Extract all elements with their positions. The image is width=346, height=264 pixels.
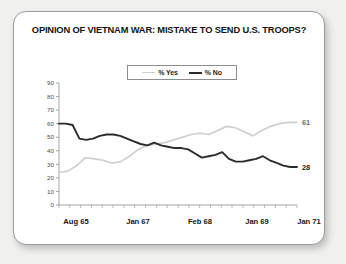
y-axis-tick-label: 0 xyxy=(51,201,55,208)
y-axis-tick-label: 80 xyxy=(47,93,54,100)
x-axis-tick-label: Feb 68 xyxy=(188,217,212,226)
plot-area: 0102030405060708090 Aug 65Jan 67Feb 68Ja… xyxy=(14,12,326,246)
y-axis-tick-label: 50 xyxy=(47,133,54,140)
y-axis-tick-label: 20 xyxy=(47,174,54,181)
x-axis-tick-label: Jan 71 xyxy=(297,217,321,226)
y-axis-tick-label: 90 xyxy=(47,79,54,86)
data-series-group xyxy=(59,122,297,172)
y-axis-tick-label: 60 xyxy=(47,120,54,127)
y-axis-tick-label: 30 xyxy=(47,161,54,168)
x-axis-tick-label: Jan 69 xyxy=(245,217,269,226)
y-axis-tick-label: 70 xyxy=(47,106,54,113)
end-value-label-no: 28 xyxy=(302,163,310,172)
x-axis-tick-label: Aug 65 xyxy=(63,217,89,226)
chart-card: OPINION OF VIETNAM WAR: MISTAKE TO SEND … xyxy=(13,11,325,245)
end-value-labels: 6128 xyxy=(302,118,310,172)
line-chart-svg: 0102030405060708090 Aug 65Jan 67Feb 68Ja… xyxy=(14,12,326,246)
screenshot-root: OPINION OF VIETNAM WAR: MISTAKE TO SEND … xyxy=(0,0,346,264)
y-axis: 0102030405060708090 xyxy=(47,79,59,208)
x-axis: Aug 65Jan 67Feb 68Jan 69Jan 71 xyxy=(59,205,322,226)
y-axis-tick-label: 40 xyxy=(47,147,54,154)
y-axis-tick-label: 10 xyxy=(47,188,54,195)
x-axis-tick-label: Jan 67 xyxy=(126,217,150,226)
end-value-label-yes: 61 xyxy=(302,118,310,127)
